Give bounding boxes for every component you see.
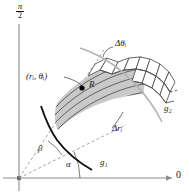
polar-region-figure: π 2 0 (rᵢ, θᵢ) R Δθᵢ Δrᵢ g₁ g₂ α β bbox=[0, 0, 189, 196]
curve-g1-label: g₁ bbox=[100, 158, 108, 167]
delta-theta-label: Δθᵢ bbox=[115, 39, 126, 48]
ray-alpha-dashed bbox=[19, 125, 126, 178]
axis-label-zero: 0 bbox=[176, 170, 181, 180]
angle-alpha-label: α bbox=[66, 160, 71, 169]
leader-delta-theta bbox=[103, 47, 113, 57]
angle-beta-label: β bbox=[38, 144, 42, 153]
sample-point-label: (rᵢ, θᵢ) bbox=[26, 72, 47, 81]
figure-canvas bbox=[0, 0, 189, 196]
arc-alpha bbox=[74, 152, 80, 178]
axis-label-pi-over-2: π 2 bbox=[13, 2, 27, 20]
pi-numerator: π bbox=[13, 2, 27, 10]
pi-denominator: 2 bbox=[13, 12, 27, 20]
delta-r-label: Δrᵢ bbox=[112, 124, 122, 133]
curve-g2-label: g₂ bbox=[164, 104, 172, 113]
sample-point-dot bbox=[79, 85, 84, 90]
region-label: R bbox=[89, 80, 95, 89]
